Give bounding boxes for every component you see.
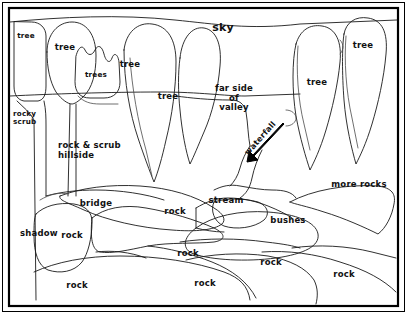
- rock-field-top-edge: [180, 239, 300, 248]
- scene-sketch-figure: sky tree tree trees tree tree tree tree …: [0, 0, 407, 314]
- label-rock-bridge-right: rock: [161, 207, 189, 217]
- horizon-ridge-line: [10, 17, 397, 27]
- label-rock-under-shadow: rock: [58, 231, 86, 241]
- label-tree-far-right: tree: [347, 41, 379, 51]
- label-rock-lower-right: rock: [330, 270, 358, 280]
- rock-mid-right-edge: [292, 246, 396, 258]
- label-more-rocks: more rocks: [328, 180, 390, 190]
- label-rock-lower-mid: rock: [174, 249, 202, 259]
- label-rock-mid-right: rock: [191, 279, 219, 289]
- label-tree-top-left: tree: [12, 32, 40, 40]
- tree-canopy-left: [47, 22, 96, 104]
- more-rocks-shape: [290, 186, 394, 234]
- label-trees-small: trees: [79, 71, 113, 79]
- rocky-scrub-left-edge: [17, 101, 36, 300]
- rock-lower-left-outline: [34, 256, 250, 300]
- label-sky: sky: [205, 22, 241, 34]
- label-bridge: bridge: [76, 199, 116, 209]
- label-tree-mid-right: tree: [152, 92, 184, 102]
- tree-right-inner-line: [297, 46, 310, 150]
- label-rocky-scrub: rocky scrub: [13, 110, 47, 126]
- label-bushes: bushes: [266, 216, 310, 226]
- label-tree-right: tree: [301, 78, 333, 88]
- small-ledge-notch: [286, 110, 296, 126]
- label-shadow: shadow: [16, 229, 62, 239]
- label-rock-and-scrub-hillside: rock & scrub hillside: [58, 141, 138, 160]
- label-rock-lower-left: rock: [63, 281, 91, 291]
- tree-far-right-inner-line: [345, 36, 358, 148]
- label-stream: stream: [205, 196, 247, 206]
- label-far-side-of-valley: far side of valley: [208, 84, 260, 113]
- label-tree-left: tree: [48, 43, 82, 53]
- tree-canopy-right: [293, 26, 340, 170]
- label-tree-mid: tree: [114, 60, 146, 70]
- label-rock-lower-right-upper: rock: [257, 258, 285, 268]
